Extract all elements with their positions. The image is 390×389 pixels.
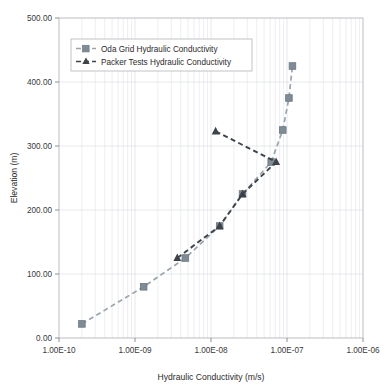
y-tick-label: 0.00 <box>36 334 52 343</box>
data-point-square <box>289 63 296 70</box>
y-tick-label: 500.00 <box>27 14 52 23</box>
data-point-square <box>279 127 286 134</box>
y-tick-label: 100.00 <box>27 270 52 279</box>
x-tick-label: 1.00E-10 <box>42 346 76 355</box>
x-tick-label: 1.00E-07 <box>270 346 304 355</box>
hydraulic-conductivity-scatter-chart: 1.00E-101.00E-091.00E-081.00E-071.00E-06… <box>0 0 390 389</box>
data-point-square <box>286 95 293 102</box>
x-tick-label: 1.00E-08 <box>194 346 228 355</box>
x-axis-title: Hydraulic Conductivity (m/s) <box>158 372 265 382</box>
y-tick-label: 200.00 <box>27 206 52 215</box>
data-point-square <box>140 284 147 291</box>
chart-legend: Oda Grid Hydraulic Conductivity Packer T… <box>71 39 252 71</box>
legend-label-oda-grid: Oda Grid Hydraulic Conductivity <box>101 45 218 54</box>
y-tick-label: 400.00 <box>27 78 52 87</box>
x-tick-label: 1.00E-09 <box>118 346 152 355</box>
y-tick-label: 300.00 <box>27 142 52 151</box>
legend-marker-square-icon <box>83 45 90 52</box>
data-point-square <box>182 255 189 262</box>
chart-container: 1.00E-101.00E-091.00E-081.00E-071.00E-06… <box>0 0 390 389</box>
data-point-square <box>79 321 86 328</box>
x-tick-label: 1.00E-06 <box>346 346 380 355</box>
y-axis-title: Elevation (m) <box>9 153 19 204</box>
legend-label-packer-tests: Packer Tests Hydraulic Conductivity <box>101 58 232 67</box>
